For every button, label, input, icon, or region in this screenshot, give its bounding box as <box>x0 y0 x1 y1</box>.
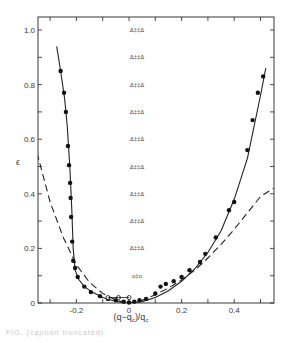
data-point <box>68 196 72 200</box>
data-point <box>58 69 62 73</box>
data-point <box>158 284 162 288</box>
y-tick-label: 1.0 <box>24 26 36 35</box>
data-point <box>250 118 254 122</box>
x-tick-label: 0.2 <box>176 306 188 315</box>
data-point <box>67 163 71 167</box>
symbol-marker: Δ‡‡Δ <box>130 54 145 60</box>
symbol-column: Δ‡‡ΔΔ‡‡ΔΔ‡‡ΔΔ‡‡ΔΔ‡‡ΔΔ‡‡ΔΔ‡‡ΔΔ‡‡ΔΔ‡‡Δo‡o <box>130 27 145 279</box>
fit-curves <box>37 46 274 303</box>
data-point <box>73 266 77 270</box>
data-point <box>66 144 70 148</box>
axis-tick-labels: -0.200.20.400.20.40.60.81.0 <box>24 26 240 315</box>
symbol-marker: o‡o <box>132 273 143 279</box>
data-point <box>68 181 72 185</box>
data-point <box>98 294 102 298</box>
data-point <box>153 291 157 295</box>
symbol-marker: Δ‡‡Δ <box>130 218 145 224</box>
data-point <box>187 268 191 272</box>
symbol-marker: Δ‡‡Δ <box>130 164 145 170</box>
data-point <box>203 252 207 256</box>
data-point <box>89 290 93 294</box>
symbol-marker: Δ‡‡Δ <box>130 136 145 142</box>
data-point <box>70 239 74 243</box>
symbol-marker: Δ‡‡Δ <box>130 245 145 251</box>
y-tick-label: 0.2 <box>24 244 36 253</box>
data-point <box>71 258 75 262</box>
data-points <box>58 69 265 305</box>
data-point <box>172 279 176 283</box>
symbol-marker: Δ‡‡Δ <box>130 109 145 115</box>
data-point <box>256 91 260 95</box>
data-point <box>64 110 68 114</box>
symbol-marker: Δ‡‡Δ <box>130 82 145 88</box>
y-tick-label: 0 <box>31 299 36 308</box>
data-point <box>127 300 131 304</box>
data-point <box>245 148 249 152</box>
data-point <box>76 275 80 279</box>
y-tick-label: 0.8 <box>24 81 36 90</box>
data-point <box>62 91 66 95</box>
y-tick-label: 0.6 <box>24 135 36 144</box>
y-axis-label: ε <box>16 157 20 167</box>
chart: -0.200.20.400.20.40.60.81.0 Δ‡‡ΔΔ‡‡ΔΔ‡‡Δ… <box>0 0 289 343</box>
figure: -0.200.20.400.20.40.60.81.0 Δ‡‡ΔΔ‡‡ΔΔ‡‡Δ… <box>0 0 289 343</box>
y-tick-label: 0.4 <box>24 190 36 199</box>
data-point <box>227 208 231 212</box>
data-point <box>137 298 141 302</box>
data-point <box>82 284 86 288</box>
symbol-marker: Δ‡‡Δ <box>130 27 145 33</box>
data-point <box>198 260 202 264</box>
data-point <box>164 282 168 286</box>
data-point <box>132 299 136 303</box>
data-point <box>214 235 218 239</box>
figure-caption: FIG. (caption truncated) <box>6 329 104 336</box>
x-tick-label: -0.2 <box>70 306 84 315</box>
data-point <box>232 200 236 204</box>
data-point <box>144 297 148 301</box>
x-tick-label: 0.4 <box>229 306 241 315</box>
data-point <box>179 275 183 279</box>
symbol-marker: Δ‡‡Δ <box>130 191 145 197</box>
data-point <box>261 74 265 78</box>
x-axis-label: (q−qc)/qc <box>114 312 149 323</box>
data-point <box>122 299 126 303</box>
data-point <box>69 215 73 219</box>
solid-fit-curve <box>57 46 129 303</box>
